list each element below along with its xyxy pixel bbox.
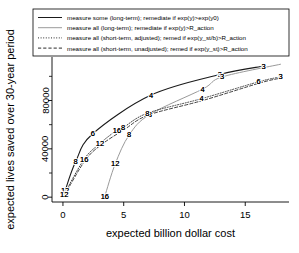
series-line-3 [65, 78, 281, 195]
point-label: 6 [91, 129, 95, 138]
point-label: 4 [201, 85, 205, 94]
point-label: 8 [127, 130, 131, 139]
point-label: 3 [220, 72, 224, 81]
point-label: 16 [101, 192, 109, 201]
y-tick-label: 80000 [40, 87, 51, 113]
point-label: 3 [261, 62, 265, 71]
point-label: 3 [278, 72, 282, 81]
legend-label-0: measure some (long-term); remediate if e… [67, 14, 219, 21]
point-label: 4 [149, 91, 153, 100]
x-axis-title: expected billion dollar cost [106, 227, 235, 239]
point-label: 12 [96, 139, 104, 148]
x-tick-label: 5 [121, 209, 126, 220]
line-chart: 04000080000051015expected billion dollar… [0, 0, 299, 253]
point-label: 8 [145, 109, 149, 118]
point-label: 6 [257, 77, 261, 86]
y-tick-label: 40000 [40, 136, 51, 162]
legend-label-3: measure all (short-term, unadjusted); re… [67, 45, 248, 52]
x-tick-label: 0 [60, 209, 65, 220]
y-tick-label: 0 [40, 195, 51, 200]
x-tick-label: 10 [179, 209, 190, 220]
point-label: 16 [113, 126, 121, 135]
series-line-2 [64, 77, 280, 194]
legend-label-2: measure all (short-term, adjusted); reme… [67, 34, 247, 41]
point-label: 4 [199, 94, 203, 103]
point-label: 12 [111, 159, 119, 168]
point-label: 8 [74, 157, 78, 166]
point-label: 8 [121, 123, 125, 132]
point-label: 16 [80, 155, 88, 164]
legend-label-1: measure all (long-term); remediate if ex… [67, 24, 214, 31]
chart-figure: 04000080000051015expected billion dollar… [0, 0, 299, 253]
y-axis-title: expected lives saved over 30-year period [4, 29, 16, 230]
point-label: 12 [60, 190, 68, 199]
x-tick-label: 15 [240, 209, 251, 220]
